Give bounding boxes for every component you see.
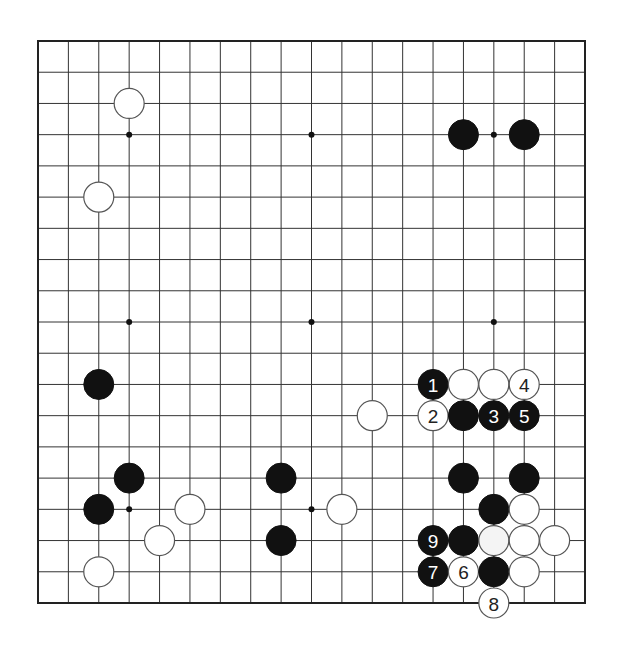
go-board: 142359768 (0, 0, 618, 651)
black-stone (114, 463, 144, 493)
move-5-black-stone: 5 (509, 401, 539, 431)
black-stone (448, 120, 478, 150)
black-stone-icon (448, 401, 478, 431)
white-stone (357, 401, 387, 431)
star-point (126, 506, 132, 512)
black-stone-icon (509, 120, 539, 150)
white-stone (540, 526, 570, 556)
white-stone (509, 526, 539, 556)
move-2-white-stone: 2 (418, 401, 448, 431)
star-point (309, 319, 315, 325)
star-point (309, 506, 315, 512)
white-stone-icon (540, 526, 570, 556)
black-stone (84, 369, 114, 399)
black-stone-icon (448, 526, 478, 556)
star-point (491, 132, 497, 138)
black-stone (266, 463, 296, 493)
star-point (491, 319, 497, 325)
black-stone-icon (114, 463, 144, 493)
black-stone-icon (509, 463, 539, 493)
move-number-label: 4 (519, 375, 530, 396)
move-number-label: 6 (458, 562, 469, 583)
white-stone-icon (84, 557, 114, 587)
black-stone-icon (479, 557, 509, 587)
black-stone (448, 526, 478, 556)
move-number-label: 1 (428, 375, 439, 396)
white-stone-icon (114, 88, 144, 118)
black-stone (84, 494, 114, 524)
white-stone (175, 494, 205, 524)
white-stone-icon (357, 401, 387, 431)
black-stone-icon (84, 494, 114, 524)
black-stone (448, 463, 478, 493)
move-number-label: 2 (428, 406, 439, 427)
move-number-label: 8 (489, 594, 500, 615)
black-stone (448, 401, 478, 431)
black-stone-icon (448, 463, 478, 493)
move-6-white-stone: 6 (448, 557, 478, 587)
star-point (126, 319, 132, 325)
move-9-black-stone: 9 (418, 526, 448, 556)
black-stone (479, 557, 509, 587)
white-stone (114, 88, 144, 118)
white-stone-icon (509, 526, 539, 556)
move-number-label: 5 (519, 406, 530, 427)
move-number-label: 9 (428, 531, 439, 552)
white-stone-icon (479, 526, 509, 556)
white-stone (509, 494, 539, 524)
black-stone (509, 463, 539, 493)
move-8-white-stone: 8 (479, 588, 509, 618)
black-stone (479, 494, 509, 524)
black-stone (509, 120, 539, 150)
black-stone-icon (84, 369, 114, 399)
black-stone-icon (448, 120, 478, 150)
black-stone-icon (266, 526, 296, 556)
white-stone-icon (509, 557, 539, 587)
white-stone-icon (175, 494, 205, 524)
white-stone-icon (479, 369, 509, 399)
black-stone (266, 526, 296, 556)
white-stone-icon (145, 526, 175, 556)
white-stone (479, 526, 509, 556)
move-4-white-stone: 4 (509, 369, 539, 399)
white-stone-icon (327, 494, 357, 524)
move-1-black-stone: 1 (418, 369, 448, 399)
white-stone (509, 557, 539, 587)
move-3-black-stone: 3 (479, 401, 509, 431)
star-point (309, 132, 315, 138)
white-stone-icon (448, 369, 478, 399)
white-stone (479, 369, 509, 399)
white-stone-icon (84, 182, 114, 212)
move-number-label: 3 (489, 406, 500, 427)
white-stone (145, 526, 175, 556)
black-stone-icon (479, 494, 509, 524)
star-point (126, 132, 132, 138)
white-stone-icon (509, 494, 539, 524)
move-number-label: 7 (428, 562, 439, 583)
white-stone (84, 182, 114, 212)
black-stone-icon (266, 463, 296, 493)
move-7-black-stone: 7 (418, 557, 448, 587)
go-board-diagram: 142359768 (0, 0, 618, 651)
white-stone (84, 557, 114, 587)
white-stone (327, 494, 357, 524)
white-stone (448, 369, 478, 399)
